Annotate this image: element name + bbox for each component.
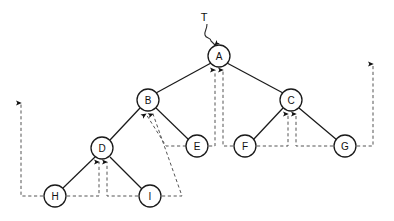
node-g[interactable]: G (334, 135, 356, 157)
node-c[interactable]: C (280, 89, 302, 111)
node-i-label: I (149, 191, 152, 202)
thread-f-to-a (223, 70, 233, 146)
root-pointer-label: T (201, 11, 208, 23)
thread-h-to-head-left (21, 103, 43, 196)
thread-i-to-d (107, 162, 138, 196)
node-h-label: H (51, 191, 58, 202)
tree-edge-b-d (110, 108, 140, 140)
node-a-label: A (216, 51, 223, 62)
diagram-canvas: T A B C D E (0, 0, 394, 221)
node-h[interactable]: H (44, 185, 66, 207)
node-e[interactable]: E (186, 135, 208, 157)
thread-e-to-b (146, 114, 186, 146)
node-f[interactable]: F (234, 135, 256, 157)
thread-e-to-a (209, 70, 215, 146)
root-pointer-squiggle (205, 24, 215, 45)
node-b-label: B (145, 95, 152, 106)
node-f-label: F (242, 141, 248, 152)
node-d-label: D (98, 143, 105, 154)
tree-edge-d-h (63, 157, 95, 188)
node-b[interactable]: B (137, 89, 159, 111)
node-g-label: G (341, 141, 349, 152)
tree-edge-a-b (156, 63, 211, 93)
node-a[interactable]: A (208, 45, 230, 67)
node-i[interactable]: I (139, 185, 161, 207)
thread-i-to-b (153, 114, 182, 196)
thread-g-to-head-right (357, 64, 373, 146)
tree-edge-a-c (227, 63, 283, 93)
tree-edge-group (63, 63, 337, 189)
node-c-label: C (287, 95, 294, 106)
threaded-binary-tree-svg: T A B C D E (0, 0, 394, 221)
root-pointer: T (201, 11, 215, 45)
thread-group (21, 64, 373, 196)
tree-edge-c-f (253, 108, 283, 140)
thread-g-to-c (296, 114, 333, 146)
node-d[interactable]: D (91, 137, 113, 159)
node-e-label: E (194, 141, 201, 152)
tree-edge-d-i (110, 157, 142, 189)
tree-edge-c-g (299, 108, 337, 140)
